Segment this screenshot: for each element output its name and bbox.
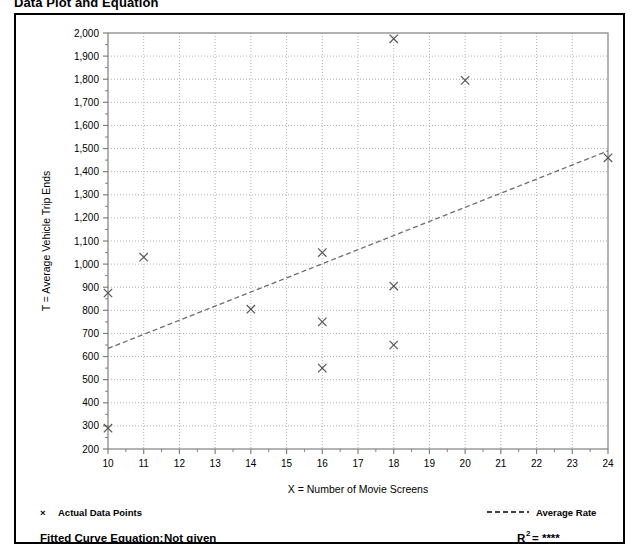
r-squared-label: R (517, 532, 526, 544)
y-tick-label: 600 (82, 351, 99, 362)
x-tick-label: 11 (139, 458, 150, 469)
x-tick-label: 15 (281, 458, 293, 469)
footer-r-squared: R 2 = **** (517, 529, 560, 544)
x-tick-label: 23 (567, 458, 579, 469)
y-tick-label: 1,800 (74, 74, 99, 85)
x-cross-icon: × (40, 507, 46, 518)
footer-fitted-curve: Fitted Curve Equation: Not given (40, 532, 216, 544)
y-tick-label: 2,000 (74, 28, 99, 39)
data-point-marker (318, 364, 326, 372)
x-tick-label: 17 (352, 458, 364, 469)
legend-data-points: × Actual Data Points (40, 507, 142, 518)
legend-average-rate: Average Rate (487, 507, 596, 518)
y-tick-label: 1,600 (74, 120, 99, 131)
legend-average-rate-label: Average Rate (536, 507, 596, 518)
fitted-curve-label: Fitted Curve Equation: (40, 532, 163, 544)
y-tick-label: 1,100 (74, 236, 99, 247)
y-tick-label: 200 (82, 444, 99, 455)
chart-svg: 2003004005006007008009001,0001,1001,2001… (16, 15, 627, 546)
y-tick-label: 1,300 (74, 189, 99, 200)
y-tick-label: 900 (82, 282, 99, 293)
x-tick-label: 14 (245, 458, 257, 469)
x-tick-label: 16 (317, 458, 329, 469)
x-axis-label: X = Number of Movie Screens (288, 483, 428, 495)
axis-ticks-group (103, 33, 608, 454)
x-tick-label: 21 (495, 458, 507, 469)
x-tick-label: 12 (174, 458, 186, 469)
x-tick-label: 13 (210, 458, 222, 469)
x-tick-label: 18 (388, 458, 400, 469)
y-tick-label: 400 (82, 397, 99, 408)
gridlines-group (108, 33, 608, 449)
data-point-marker (390, 282, 398, 290)
x-tick-label: 20 (460, 458, 472, 469)
y-axis-label: T = Average Vehicle Trip Ends (40, 171, 52, 312)
r-squared-superscript: 2 (526, 529, 531, 538)
data-point-marker (390, 35, 398, 43)
legend-data-points-label: Actual Data Points (58, 507, 142, 518)
page-title: Data Plot and Equation (14, 0, 158, 10)
y-tick-label: 1,000 (74, 259, 99, 270)
data-point-marker (461, 76, 469, 84)
y-tick-label: 300 (82, 420, 99, 431)
x-tick-label: 10 (102, 458, 114, 469)
x-tick-label: 24 (602, 458, 614, 469)
y-tick-label: 1,900 (74, 51, 99, 62)
r-squared-value: = **** (532, 532, 560, 544)
chart-frame: 2003004005006007008009001,0001,1001,2001… (14, 13, 625, 544)
fitted-curve-value: Not given (164, 532, 216, 544)
x-tick-label: 19 (424, 458, 436, 469)
y-tick-labels-group: 2003004005006007008009001,0001,1001,2001… (74, 28, 99, 455)
y-tick-label: 700 (82, 328, 99, 339)
y-tick-label: 800 (82, 305, 99, 316)
x-tick-label: 22 (531, 458, 543, 469)
data-point-marker (140, 253, 148, 261)
y-tick-label: 500 (82, 374, 99, 385)
x-tick-labels-group: 101112131415161718192021222324 (102, 458, 614, 469)
y-tick-label: 1,400 (74, 166, 99, 177)
y-tick-label: 1,700 (74, 97, 99, 108)
y-tick-label: 1,200 (74, 212, 99, 223)
y-tick-label: 1,500 (74, 143, 99, 154)
